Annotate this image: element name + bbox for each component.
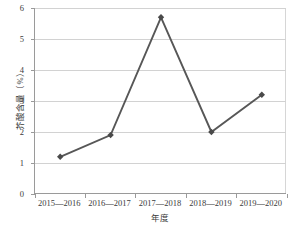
line-chart-figure: 芥酸含量（%） 0123456 2015—20162016—20172017—2… xyxy=(0,0,300,232)
y-tick-label: 3 xyxy=(0,96,24,106)
data-point-marker xyxy=(57,154,63,160)
data-point-marker xyxy=(107,132,113,138)
plot-area xyxy=(34,8,286,194)
cropped-caption-fragment xyxy=(8,227,292,232)
x-axis-title: 年度 xyxy=(34,211,286,223)
y-tick-label: 6 xyxy=(0,3,24,13)
y-tick-label: 5 xyxy=(0,34,24,44)
data-line xyxy=(60,17,262,157)
y-tick-label: 1 xyxy=(0,158,24,168)
y-tick-label: 4 xyxy=(0,65,24,75)
data-point-marker xyxy=(158,14,164,20)
data-line-and-markers xyxy=(35,8,287,194)
x-tick-label: 2019—2020 xyxy=(223,198,299,208)
y-tick-label: 2 xyxy=(0,127,24,137)
